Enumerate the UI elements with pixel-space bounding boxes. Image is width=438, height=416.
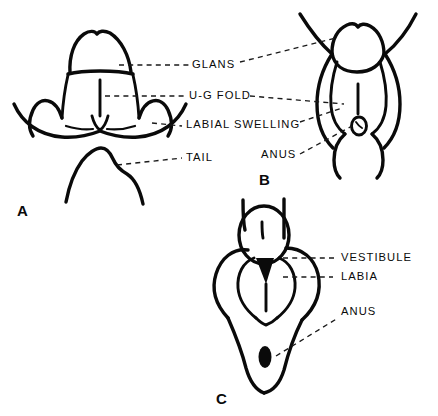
- panel-c-labia-outer-right: [286, 248, 319, 320]
- panel-c-labia-outer-left: [214, 250, 248, 318]
- anatomical-figure: GLANS U-G FOLD LABIAL SWELLING TAIL ANUS…: [0, 0, 438, 416]
- label-labia: LABIA: [341, 271, 378, 282]
- panel-a-leaders: [105, 65, 190, 165]
- panel-b-leaders: [240, 38, 352, 154]
- panel-a-ug-fold-line: [68, 71, 133, 74]
- panel-a-tail-outline: [66, 148, 143, 204]
- label-vestibule: VESTIBULE: [341, 252, 412, 263]
- label-anus-panel-b: ANUS: [261, 149, 296, 160]
- panel-b-glans-outline: [332, 24, 384, 54]
- label-tail: TAIL: [186, 152, 213, 163]
- panel-c-labia-inner-right: [277, 258, 295, 318]
- panel-c-vestibule-opening: [256, 258, 274, 284]
- panel-a-glans-outline: [70, 31, 131, 73]
- panel-a-shaft-left: [62, 75, 68, 118]
- panel-c-drawing: [214, 199, 319, 393]
- leader-glans-b: [240, 38, 336, 62]
- leader-tail: [117, 158, 182, 165]
- label-ug-fold: U-G FOLD: [189, 90, 251, 101]
- panel-a-inner-cleft: [92, 116, 108, 130]
- panel-a-labial-swelling-left: [30, 101, 62, 136]
- panel-b-glans-base: [332, 53, 384, 72]
- panel-c-leaders: [276, 258, 338, 356]
- panel-letter-a: A: [17, 203, 28, 218]
- panel-a-drawing: [14, 31, 186, 204]
- panel-b-limb-upper-right: [385, 14, 416, 54]
- panel-a-inner-fold-right: [107, 126, 135, 129]
- panel-c-anus: [259, 346, 272, 368]
- panel-letter-c: C: [216, 391, 227, 406]
- panel-a-labial-swelling-right: [139, 101, 171, 136]
- panel-c-limb-upper-left: [243, 200, 245, 230]
- leader-anus-c: [276, 318, 338, 356]
- panel-c-glans-slit: [262, 222, 263, 238]
- label-anus-panel-c: ANUS: [341, 306, 376, 317]
- panel-b-perineum-left: [334, 134, 345, 178]
- panel-b-drawing: [300, 14, 416, 178]
- leader-anus-b: [300, 126, 352, 154]
- panel-b-anus-inner-mark: [356, 122, 362, 128]
- panel-letter-b: B: [259, 172, 270, 187]
- label-glans: GLANS: [192, 59, 235, 70]
- panel-b-ug-fold-left: [331, 62, 345, 134]
- panel-c-labia-inner-left: [238, 258, 256, 318]
- panel-c-vestibule-apex: [256, 318, 277, 325]
- panel-a-inner-fold-left: [66, 126, 93, 129]
- panel-b-perineum-right: [372, 134, 383, 178]
- panel-b-limb-upper-left: [300, 14, 332, 54]
- label-labial-swelling: LABIAL SWELLING: [186, 119, 300, 130]
- panel-b-ug-fold-right: [372, 62, 386, 134]
